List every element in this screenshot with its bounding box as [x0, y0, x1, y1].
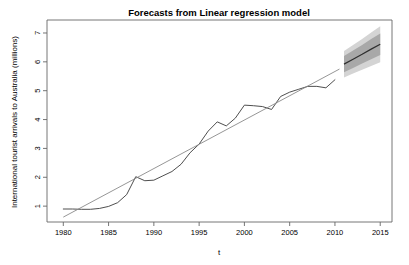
x-tick-label: 2005	[281, 228, 298, 237]
x-tick-label: 2000	[236, 228, 253, 237]
chart-background	[0, 0, 409, 265]
x-tick-label: 2015	[372, 228, 389, 237]
chart-canvas: Forecasts from Linear regression model I…	[0, 0, 409, 265]
y-tick-label: 7	[34, 31, 43, 35]
x-tick-label: 1985	[100, 228, 117, 237]
forecast-chart-panel: Forecasts from Linear regression model I…	[0, 0, 409, 265]
y-tick-label: 5	[34, 89, 43, 93]
y-tick-label: 1	[34, 204, 43, 208]
x-tick-label: 1995	[191, 228, 208, 237]
y-axis-label: International tourist arrivals to Austra…	[10, 36, 19, 208]
chart-title: Forecasts from Linear regression model	[128, 7, 310, 18]
y-tick-label: 4	[34, 117, 43, 121]
x-tick-label: 1990	[146, 228, 163, 237]
y-tick-label: 2	[34, 175, 43, 179]
y-tick-label: 6	[34, 60, 43, 64]
x-tick-label: 1980	[55, 228, 72, 237]
y-tick-label: 3	[34, 146, 43, 150]
x-tick-label: 2010	[327, 228, 344, 237]
